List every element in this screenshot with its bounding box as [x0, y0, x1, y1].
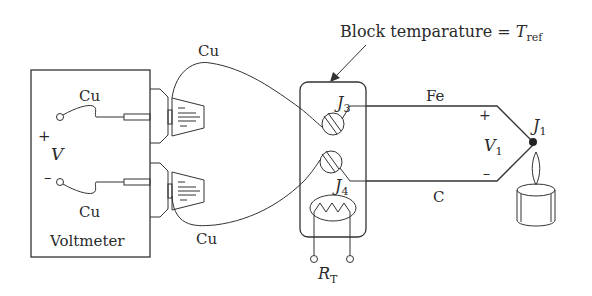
- c-wire-label: C: [433, 188, 444, 206]
- voltmeter-minus-sign: –: [44, 168, 52, 186]
- voltmeter-label: Voltmeter: [49, 232, 125, 250]
- screw-j3-icon: [322, 113, 344, 135]
- lead-cu-lower-label: Cu: [196, 230, 217, 248]
- block-temperature-arrow: [330, 45, 366, 82]
- plug-bottom: [150, 163, 204, 217]
- candle-icon: [517, 152, 555, 226]
- cu-lead-lower: [172, 160, 320, 226]
- thermocouple-minus-sign: –: [483, 165, 490, 181]
- fe-wire-label: Fe: [426, 87, 445, 105]
- plug-top: [150, 89, 204, 143]
- internal-wire-bottom: [63, 182, 124, 194]
- voltmeter-voltage-label: V: [51, 144, 65, 164]
- junction-j4-label: J4: [332, 176, 348, 198]
- flame-icon: [532, 152, 540, 185]
- screw-j4-icon: [320, 151, 342, 173]
- jack-top: [124, 114, 150, 120]
- jack-bottom: [124, 179, 150, 185]
- junction-j1-label: J1: [530, 116, 546, 138]
- fe-wire: [366, 106, 533, 142]
- terminal-negative: [57, 179, 64, 186]
- voltmeter-plus-sign: +: [38, 127, 51, 145]
- thermocouple-diagram: Block temparature = Tref Cu + V – Cu Vol…: [0, 0, 592, 296]
- thermocouple-plus-sign: +: [479, 107, 491, 123]
- thermocouple-voltage-label: V1: [484, 136, 503, 158]
- hot-junction-dot: [529, 138, 537, 146]
- terminal-positive: [57, 114, 64, 121]
- voltmeter-cu-bottom-label: Cu: [79, 203, 100, 221]
- isothermal-block: [300, 82, 366, 263]
- internal-wire-top: [63, 105, 124, 117]
- lead-cu-upper-label: Cu: [198, 42, 219, 60]
- junction-j3-label: J3: [334, 93, 350, 115]
- block-outline: [300, 82, 366, 237]
- voltmeter-cu-top-label: Cu: [79, 87, 100, 105]
- c-wire: [366, 145, 533, 181]
- thermistor-label: RT: [317, 264, 338, 286]
- block-temperature-label: Block temparature = Tref: [340, 22, 543, 44]
- thermistor-icon: [310, 195, 356, 263]
